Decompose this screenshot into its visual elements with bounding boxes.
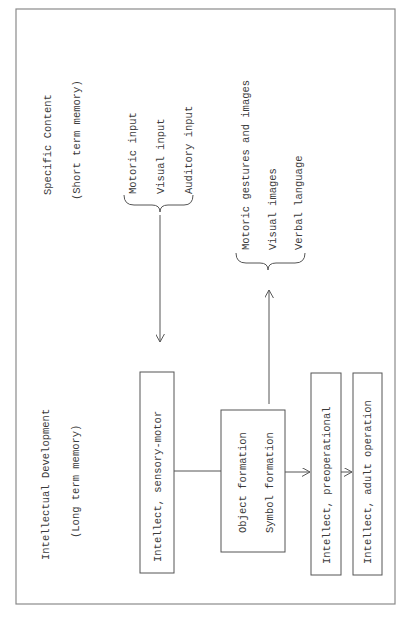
object-formation-label: Object formation xyxy=(237,432,249,533)
output-item-visual-images: Visual images xyxy=(267,168,279,250)
diagram-canvas: Specific Content (Short term memory) Mot… xyxy=(0,0,402,620)
output-item-motoric-gestures: Motoric gestures and images xyxy=(240,80,252,250)
specific-content-title: Specific Content xyxy=(42,94,54,195)
output-item-verbal-language: Verbal language xyxy=(293,155,305,250)
symbol-formation-label: Symbol formation xyxy=(264,432,276,533)
adult-operation-label: Intellect, adult operation xyxy=(362,400,374,564)
input-item-visual: Visual input xyxy=(155,118,167,194)
sensory-motor-label: Intellect, sensory-motor xyxy=(152,411,164,562)
input-item-auditory: Auditory input xyxy=(183,106,195,194)
input-item-motoric: Motoric input xyxy=(127,112,139,194)
input-brace xyxy=(124,195,193,212)
short-term-memory-label: (Short term memory) xyxy=(71,80,83,200)
output-brace xyxy=(236,253,305,270)
intellectual-development-title: Intellectual Development xyxy=(40,409,52,560)
long-term-memory-label: (Long term memory) xyxy=(70,425,82,538)
preoperational-label: Intellect, preoperational xyxy=(321,406,333,564)
diagram-page: Specific Content (Short term memory) Mot… xyxy=(0,0,402,620)
